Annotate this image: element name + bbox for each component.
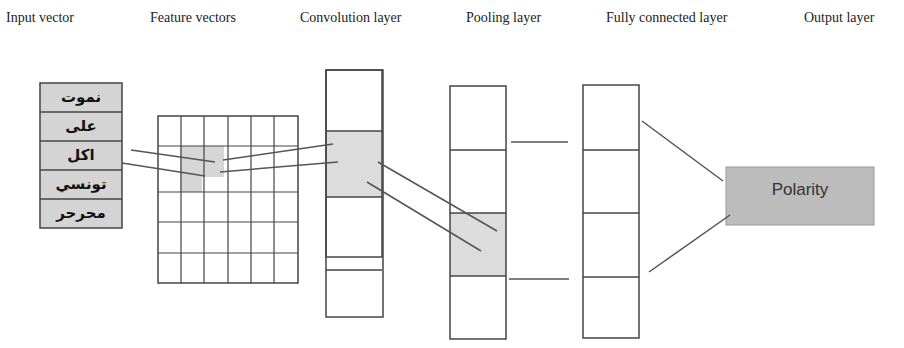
pooling-layer xyxy=(450,86,506,339)
input-word-5: محرحر xyxy=(41,200,121,227)
fully-connected-layer xyxy=(583,85,639,338)
output-polarity-label: Polarity xyxy=(726,167,874,225)
input-word-2: على xyxy=(41,113,121,140)
input-word-3: اكل xyxy=(41,142,121,169)
input-word-4: تونسي xyxy=(41,171,121,198)
input-word-1: نموت xyxy=(41,84,121,111)
convolution-layer xyxy=(326,70,383,317)
feature-vectors-grid xyxy=(158,116,298,283)
